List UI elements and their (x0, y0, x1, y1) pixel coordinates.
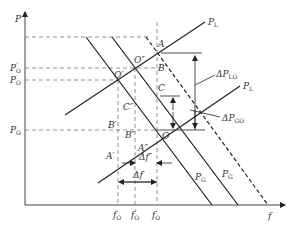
gen-line-right (112, 37, 238, 205)
delta-PLO-label: ΔPLO (215, 69, 238, 80)
tick-P0d: PO′ (9, 73, 21, 86)
delta-PGO-dimension (157, 96, 220, 130)
delta-f-prime-label: Δf′ (132, 170, 145, 180)
tick-f0: fO (151, 210, 160, 221)
pf-characteristic-diagram: P f PO″ PO′ PO fO′ fO″ fO PL PL (0, 0, 297, 228)
y-axis-label: P (14, 14, 22, 24)
point-C: C (158, 83, 165, 93)
point-O-dprime: O″ (134, 55, 145, 65)
delta-PLO-dimension (161, 53, 215, 130)
delta-f-dprime-label: Δf″ (138, 152, 153, 162)
point-B-prime: B′ (107, 120, 117, 130)
point-labels: O O′ O″ A B C A′ B′ C″ A″ B″ (105, 39, 170, 161)
axes: P f (14, 12, 285, 221)
point-B-dprime: B″ (124, 130, 136, 140)
point-C-dprime: C″ (123, 102, 134, 112)
x-tick-labels: fO′ fO″ fO (112, 208, 160, 221)
point-B: B (157, 63, 165, 73)
point-O-prime: O′ (114, 70, 123, 80)
load-line-upper (65, 22, 205, 115)
point-O: O (162, 131, 170, 141)
point-A: A (157, 39, 165, 49)
label-PG-right: PG (221, 169, 233, 180)
label-PL-upper: PL (207, 17, 218, 28)
label-PL-lower: PL (242, 81, 253, 92)
load-lines (65, 22, 240, 183)
x-axis-label: f (267, 211, 273, 221)
point-A-prime: A′ (105, 151, 115, 161)
tick-f0d: fO′ (112, 208, 121, 221)
y-tick-labels: PO″ PO′ PO (9, 61, 21, 136)
delta-PGO-label: ΔPGO (221, 113, 244, 124)
gen-line-left (86, 37, 212, 205)
tick-f0dd: fO″ (130, 208, 139, 221)
horizontal-guides (25, 37, 160, 130)
label-PG-left: PG (194, 172, 206, 183)
tick-P0: PO (9, 125, 21, 136)
